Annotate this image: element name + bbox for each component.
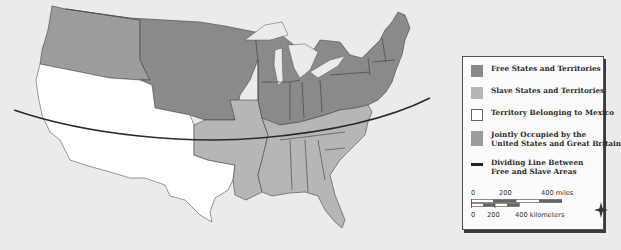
scale-km-200: 200 [487, 211, 500, 219]
scale-km-400: 400 kilometers [515, 211, 564, 219]
compass-rose-icon [594, 200, 608, 220]
scale-bar: 0 200 400 miles 0 200 400 kilometers [471, 189, 596, 225]
scale-miles-0: 0 [471, 189, 475, 197]
legend-item-dividing-line: Dividing Line Between Free and Slave Are… [471, 159, 583, 176]
scale-km-0: 0 [471, 211, 475, 219]
free-swatch [471, 65, 483, 77]
legend-label: Dividing Line Between Free and Slave Are… [491, 159, 583, 176]
joint-swatch [471, 131, 483, 146]
legend-label: Slave States and Territories [491, 87, 604, 96]
legend-label: Jointly Occupied by the United States an… [491, 131, 621, 148]
legend-item-mexico: Territory Belonging to Mexico [471, 109, 614, 121]
scale-miles-400: 400 miles [541, 189, 573, 197]
scale-bars [471, 199, 581, 209]
legend-label: Territory Belonging to Mexico [491, 109, 614, 118]
line-swatch [471, 163, 483, 166]
legend-label-line2: Free and Slave Areas [491, 168, 583, 177]
mexico-swatch [471, 109, 483, 121]
map-legend: Free States and Territories Slave States… [462, 56, 604, 230]
scale-miles-200: 200 [499, 189, 512, 197]
legend-item-joint: Jointly Occupied by the United States an… [471, 131, 621, 148]
slave-swatch [471, 87, 483, 99]
legend-label: Free States and Territories [491, 65, 601, 74]
legend-item-slave: Slave States and Territories [471, 87, 604, 99]
legend-item-free: Free States and Territories [471, 65, 601, 77]
legend-label-line2: United States and Great Britain [491, 140, 621, 149]
